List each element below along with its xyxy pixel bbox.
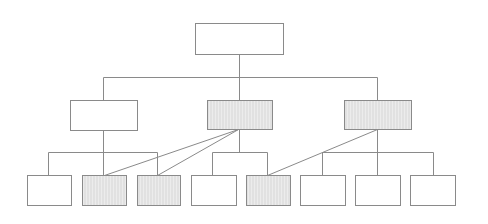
hierarchy-diagram [0,0,488,224]
tree-node-b5-shaded [247,176,291,206]
tree-node-b1 [28,176,72,206]
tree-nodes [28,24,456,206]
tree-node-b4 [192,176,237,206]
tree-node-m3-shaded [345,101,412,130]
tree-node-root [196,24,284,55]
tree-node-b6 [301,176,346,206]
tree-node-b7 [356,176,401,206]
tree-node-m2-shaded [208,101,273,130]
tree-node-b8 [411,176,456,206]
tree-node-b2-shaded [83,176,127,206]
tree-node-b3-shaded [138,176,181,206]
tree-node-m1 [71,101,138,131]
